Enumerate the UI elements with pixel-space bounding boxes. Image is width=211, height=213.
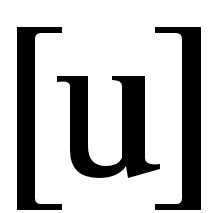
letter-u bbox=[57, 76, 160, 178]
phonetic-symbol: [u] bbox=[0, 0, 211, 213]
close-bracket bbox=[155, 27, 201, 210]
open-bracket bbox=[17, 27, 62, 210]
